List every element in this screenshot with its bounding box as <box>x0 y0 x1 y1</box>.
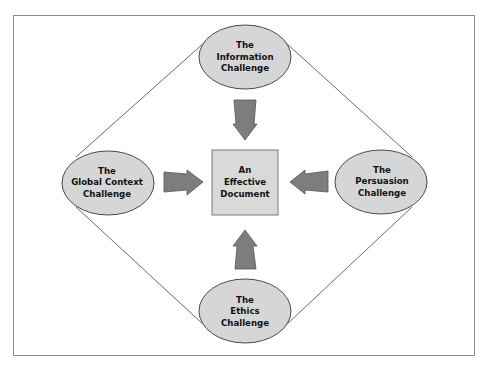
right-label-line-2: Persuasion <box>355 176 408 186</box>
left-label-line-1: The <box>98 166 116 176</box>
top-label-line-3: Challenge <box>221 63 269 73</box>
node-information-challenge: The Information Challenge <box>199 25 291 89</box>
top-label-line-1: The <box>236 40 254 50</box>
bottom-label-line-3: Challenge <box>221 318 269 328</box>
bottom-label-line-1: The <box>236 295 254 305</box>
right-label-line-1: The <box>373 165 391 175</box>
top-label-line-2: Information <box>216 52 273 62</box>
bottom-label-line-2: Ethics <box>230 306 259 316</box>
node-global-context-challenge: The Global Context Challenge <box>62 151 154 215</box>
left-label-line-2: Global Context <box>71 177 143 187</box>
center-label-line-1: An <box>239 165 252 175</box>
center-label-line-2: Effective <box>224 177 266 187</box>
center-node: An Effective Document <box>212 150 278 215</box>
right-label-line-3: Challenge <box>358 188 406 198</box>
node-ethics-challenge: The Ethics Challenge <box>199 279 291 343</box>
left-label-line-3: Challenge <box>83 189 131 199</box>
diagram-canvas: An Effective Document The Information Ch… <box>0 0 489 365</box>
node-persuasion-challenge: The Persuasion Challenge <box>335 150 427 214</box>
center-label-line-3: Document <box>220 189 269 199</box>
